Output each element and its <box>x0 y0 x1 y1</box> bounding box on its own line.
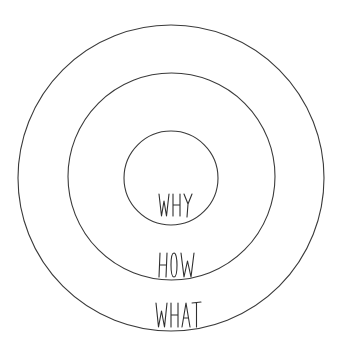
label-why <box>159 194 192 217</box>
label-how <box>159 253 194 277</box>
diagram-canvas <box>0 0 339 351</box>
outer-circle <box>18 25 324 331</box>
inner-circle <box>124 131 218 225</box>
label-what <box>156 302 201 327</box>
middle-circle <box>68 73 275 280</box>
